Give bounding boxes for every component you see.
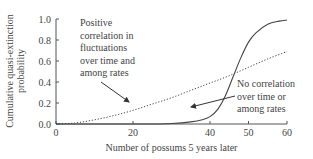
annotation-no-correlation: No correlationover time oramong rates [237,78,295,114]
y-tick-label: 0.4 [39,77,52,88]
chart-container: 0.00.20.40.60.81.0020405060Number of pos… [0,0,313,159]
y-tick-label: 0.0 [39,119,52,130]
y-tick-label: 0.2 [39,98,52,109]
arrow-icon [101,82,129,102]
quasi-extinction-chart: 0.00.20.40.60.81.0020405060Number of pos… [0,0,313,159]
y-tick-label: 0.6 [39,56,52,67]
x-tick-label: 40 [205,127,215,138]
y-tick-label: 0.8 [39,35,52,46]
x-axis-label: Number of possums 5 years later [106,142,239,153]
x-tick-label: 50 [244,127,254,138]
x-tick-label: 20 [128,127,138,138]
x-tick-label: 60 [282,127,292,138]
arrow-icon [191,96,235,107]
annotations: Positivecorrelation influctuationsover t… [80,17,295,114]
y-tick-label: 1.0 [39,14,52,25]
y-axis-label: Cumulative quasi-extinctionprobability [4,14,26,128]
annotation-positive-correlation: Positivecorrelation influctuationsover t… [80,17,135,78]
x-tick-label: 0 [54,127,59,138]
